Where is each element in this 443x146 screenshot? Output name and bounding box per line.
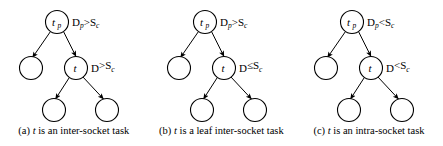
panel-c-diagram: t p t Dp<Sc D<Sc bbox=[295, 0, 443, 124]
caption-tag-a: (a) bbox=[18, 125, 32, 136]
mid-condition-label: D>Sc bbox=[91, 59, 115, 73]
panel-b-diagram: t p t Dp>Sc D≤Sc bbox=[148, 0, 296, 124]
edge-mid-to-leaf-right bbox=[82, 76, 103, 98]
node-bottom-leaf-right[interactable] bbox=[95, 98, 118, 121]
caption-text-b: is a leaf inter-socket task bbox=[177, 125, 284, 136]
edge-root-to-left-leaf bbox=[32, 32, 50, 58]
node-left-leaf[interactable] bbox=[167, 57, 190, 80]
edge-root-to-left-leaf bbox=[180, 32, 198, 58]
figure-container: t p t Dp>Sc D>Sc (a) t is an inter-socke… bbox=[0, 0, 443, 146]
caption-tag-c: (c) bbox=[313, 125, 327, 136]
node-left-leaf[interactable] bbox=[19, 57, 42, 80]
panel-c: t p t Dp<Sc D<Sc (c) t is an intra-socke… bbox=[295, 0, 443, 146]
edge-root-to-mid bbox=[211, 32, 223, 57]
caption-text-a: is an inter-socket task bbox=[36, 125, 130, 136]
edge-mid-to-leaf-left bbox=[203, 76, 217, 98]
panel-a: t p t Dp>Sc D>Sc (a) t is an inter-socke… bbox=[0, 0, 148, 146]
edge-mid-to-leaf-left bbox=[351, 76, 365, 98]
edge-mid-to-leaf-right bbox=[378, 76, 399, 98]
mid-condition-label: D<Sc bbox=[386, 59, 410, 73]
root-condition-label: Dp>Sc bbox=[220, 16, 248, 30]
node-root-label-subscript: p bbox=[56, 22, 61, 31]
panel-b: t p t Dp>Sc D≤Sc (b) t is a leaf inter-s… bbox=[148, 0, 296, 146]
node-root-label-subscript: p bbox=[352, 22, 357, 31]
edge-mid-to-leaf-right bbox=[230, 76, 251, 98]
node-bottom-leaf-right[interactable] bbox=[243, 98, 266, 121]
edge-root-to-left-leaf bbox=[328, 32, 346, 58]
node-root-label-subscript: p bbox=[204, 22, 209, 31]
node-left-leaf[interactable] bbox=[315, 57, 338, 80]
panel-a-caption: (a) t is an inter-socket task bbox=[0, 124, 148, 138]
edge-root-to-mid bbox=[359, 32, 371, 57]
node-bottom-leaf-left[interactable] bbox=[338, 98, 361, 121]
root-condition-label: Dp>Sc bbox=[72, 16, 100, 30]
node-bottom-leaf-left[interactable] bbox=[190, 98, 213, 121]
panel-a-diagram: t p t Dp>Sc D>Sc bbox=[0, 0, 148, 124]
node-bottom-leaf-right[interactable] bbox=[391, 98, 414, 121]
edge-mid-to-leaf-left bbox=[55, 76, 69, 98]
edge-root-to-mid bbox=[63, 32, 75, 57]
panel-c-caption: (c) t is an intra-socket task bbox=[295, 124, 443, 138]
mid-condition-label: D≤Sc bbox=[239, 59, 263, 73]
caption-text-c: is an intra-socket task bbox=[331, 125, 425, 136]
node-bottom-leaf-left[interactable] bbox=[42, 98, 65, 121]
panel-b-caption: (b) t is a leaf inter-socket task bbox=[148, 124, 296, 138]
caption-tag-b: (b) bbox=[159, 125, 174, 136]
root-condition-label: Dp<Sc bbox=[367, 16, 395, 30]
